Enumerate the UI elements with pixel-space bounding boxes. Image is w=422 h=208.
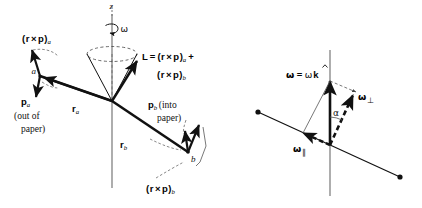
construction-line-to-perp (330, 81, 356, 92)
right-panel: ω=ωk ω⊥ ω∥ α (255, 50, 402, 196)
mass-b-label: b (191, 154, 196, 164)
svg-text:ω⊥: ω⊥ (358, 91, 374, 105)
p-a-vector-arrow (36, 76, 40, 97)
figure-canvas: z ω a b (0, 0, 422, 208)
r-a-label: ra (72, 103, 80, 115)
svg-text:rb: rb (120, 139, 128, 151)
omega-vector-label: ω=ωk (286, 65, 328, 80)
svg-text:ω=ωk: ω=ωk (286, 69, 319, 80)
angle-alpha-label: α (333, 108, 339, 118)
r-cross-p-a-leader (33, 49, 58, 56)
construction-line-to-parallel (303, 81, 330, 133)
svg-text:L=(r×p)a+: L=(r×p)a+ (142, 51, 194, 63)
svg-text:(r×p)a: (r×p)a (22, 33, 51, 45)
p-a-leader (42, 82, 58, 88)
mass-a-label: a (32, 66, 37, 76)
p-b-note-line-2: paper) (157, 113, 181, 124)
rod-left-mass-point (255, 109, 260, 114)
z-axis-label: z (109, 1, 114, 11)
svg-text:pa: pa (21, 96, 31, 108)
r-cross-p-b-vector-arrow (188, 125, 199, 152)
r-cross-p-a-label: (r×p)a (22, 33, 51, 45)
r-cross-p-b-bracket (196, 127, 206, 166)
left-panel: z ω a b (14, 1, 206, 195)
svg-text:(r×p)b: (r×p)b (146, 183, 175, 195)
p-a-label: pa (21, 96, 31, 108)
p-a-note-line-1: (out of (14, 111, 40, 122)
svg-text:ra: ra (72, 103, 80, 115)
svg-text:(r×p)b: (r×p)b (157, 69, 186, 81)
r-cross-p-b-label: (r×p)b (146, 183, 175, 195)
svg-text:ω∥: ω∥ (293, 143, 306, 157)
rod-right-mass-point (397, 174, 402, 179)
omega-parallel-label: ω∥ (293, 143, 306, 157)
p-a-note-line-2: paper) (21, 124, 45, 135)
svg-text:pb(into: pb(into (148, 99, 177, 111)
k-hat-caret (323, 65, 328, 68)
r-b-label: rb (120, 139, 128, 151)
L-label-line-2: (r×p)b (157, 69, 186, 81)
p-b-label: pb(into (148, 99, 177, 111)
physics-figure: z ω a b (0, 0, 422, 208)
L-label-line-1: L=(r×p)a+ (142, 51, 194, 63)
r-cross-p-b-leader (156, 162, 184, 178)
omega-perp-label: ω⊥ (358, 91, 374, 105)
omega-rotation-label: ω (121, 24, 129, 34)
L-vector-arrow (112, 61, 137, 101)
